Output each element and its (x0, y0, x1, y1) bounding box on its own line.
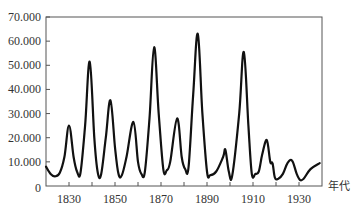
x-tick-label: 1850 (103, 192, 127, 206)
x-axis-label: 年代 (328, 179, 350, 193)
y-tick-label: 60.000 (8, 34, 41, 48)
line-chart: 010.00020.00030.00040.00050.00060.00070.… (0, 0, 357, 211)
x-tick-label: 1910 (241, 192, 265, 206)
x-tick-label: 1930 (287, 192, 311, 206)
y-tick-label: 20.000 (8, 131, 41, 145)
y-tick-label: 70.000 (8, 10, 41, 24)
y-tick-label: 10.000 (8, 155, 41, 169)
data-line (46, 34, 320, 181)
x-tick-label: 1830 (57, 192, 81, 206)
y-tick-label: 30.000 (8, 107, 41, 121)
y-tick-label: 0 (35, 181, 41, 195)
y-axis: 010.00020.00030.00040.00050.00060.00070.… (8, 10, 50, 195)
y-tick-label: 40.000 (8, 82, 41, 96)
x-tick-label: 1890 (195, 192, 219, 206)
y-tick-label: 50.000 (8, 58, 41, 72)
x-tick-label: 1870 (149, 192, 173, 206)
